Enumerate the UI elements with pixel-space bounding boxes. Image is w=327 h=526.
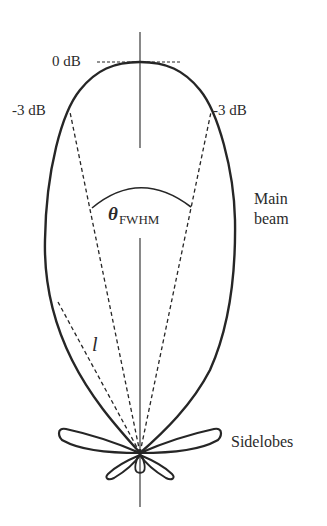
length-label: l — [92, 334, 98, 354]
minus3db-right-label: -3 dB — [213, 103, 247, 118]
main-beam-label-line1: Main — [254, 189, 289, 209]
sidelobes-label: Sidelobes — [231, 432, 293, 452]
theta-symbol: θ — [108, 203, 118, 224]
theta-fwhm-label: θFWHM — [108, 204, 159, 223]
theta-subscript: FWHM — [119, 212, 159, 227]
minus3db-left-label: -3 dB — [12, 103, 46, 118]
half-power-line-right — [140, 112, 211, 453]
main-beam-label-line2: beam — [254, 209, 289, 229]
main-beam-label: Main beam — [254, 189, 289, 229]
half-power-line-left — [70, 112, 140, 453]
zero-db-label: 0 dB — [52, 54, 81, 69]
